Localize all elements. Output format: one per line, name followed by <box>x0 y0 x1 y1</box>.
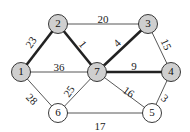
edge-weight-label: 16 <box>121 84 137 100</box>
edge-weight-label: 25 <box>61 83 77 99</box>
node-label: 6 <box>55 106 61 118</box>
edge-weight-label: 23 <box>23 34 39 50</box>
node-5: 5 <box>143 104 162 123</box>
node-label: 7 <box>94 65 100 77</box>
node-label: 1 <box>18 65 24 77</box>
nodes-layer: 1234567 <box>12 15 181 123</box>
node-3: 3 <box>139 15 158 34</box>
node-label: 3 <box>145 17 151 29</box>
node-label: 5 <box>149 106 155 118</box>
weighted-graph-diagram: 23120415369282516317 1234567 <box>0 0 190 132</box>
node-6: 6 <box>49 104 68 123</box>
edge-weight-label: 20 <box>98 13 110 25</box>
edge-weight-label: 28 <box>24 91 41 108</box>
edge-weight-label: 36 <box>54 61 66 73</box>
edge-weight-label: 9 <box>131 60 137 72</box>
node-4: 4 <box>162 63 181 82</box>
edge-3-7 <box>97 24 148 72</box>
node-label: 4 <box>168 65 174 77</box>
node-label: 2 <box>55 17 61 29</box>
edge-weight-label: 17 <box>95 120 107 132</box>
node-7: 7 <box>88 63 107 82</box>
node-2: 2 <box>49 15 68 34</box>
node-1: 1 <box>12 63 31 82</box>
